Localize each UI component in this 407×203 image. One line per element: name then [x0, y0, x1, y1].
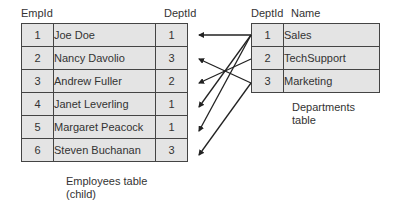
relationship-arrows	[0, 0, 407, 203]
arrow-marketing-to-emp6	[199, 83, 251, 155]
arrow-sales-to-emp5	[199, 35, 251, 131]
